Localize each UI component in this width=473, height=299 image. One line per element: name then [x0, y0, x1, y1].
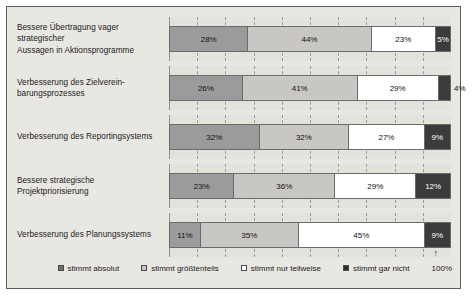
row-plot-area: 26%41%29%4%	[169, 66, 451, 110]
bar-segment-3: 29%	[358, 76, 439, 100]
legend-swatch-icon	[241, 265, 247, 271]
bar-segment-value: 26%	[198, 84, 214, 93]
chart-plot-container: Bessere Übertragung vager strategischerA…	[11, 11, 456, 284]
bar-segment-1: 26%	[170, 76, 243, 100]
row-label-line1: Verbesserung des Reportingsystems	[17, 131, 152, 143]
bar-segment-value: 9%	[432, 231, 444, 240]
bar-segment-value: 32%	[206, 133, 222, 142]
legend-swatch-icon	[58, 265, 64, 271]
bar-segment-value: 9%	[432, 133, 444, 142]
chart-legend: stimmt absolutstimmt größtenteilsstimmt …	[11, 258, 456, 278]
chart-row: Bessere strategische Projektpriorisierun…	[11, 164, 456, 208]
stacked-bar: 23%36%29%12%	[169, 173, 451, 199]
axis-arrow-icon: ↑	[434, 249, 439, 258]
bar-segment-2: 44%	[248, 27, 371, 51]
bar-segment-value: 29%	[367, 182, 383, 191]
bar-segment-2: 36%	[234, 174, 335, 198]
bar-segment-value: 41%	[292, 84, 308, 93]
row-label-line2: Aussagen in Aktionsprogramme	[17, 45, 165, 57]
chart-row: Verbesserung des Reportingsystems32%32%2…	[11, 115, 456, 159]
bar-segment-value: 11%	[177, 231, 192, 240]
bar-segment-value: 44%	[301, 35, 317, 44]
bar-segment-3: 27%	[349, 125, 425, 149]
row-category-label: Bessere Übertragung vager strategischerA…	[17, 17, 165, 61]
row-label-line1: Bessere strategische Projektpriorisierun…	[17, 175, 165, 198]
bar-segment-1: 23%	[170, 174, 234, 198]
legend-item-label: stimmt größtenteils	[151, 264, 219, 273]
bar-segment-value: 5%	[437, 35, 449, 44]
row-label-line1: Verbesserung des Planungssystems	[17, 229, 151, 241]
row-label-line1: Verbesserung des Zielverein-	[17, 77, 125, 89]
row-label-line1: Bessere Übertragung vager strategischer	[17, 22, 165, 45]
row-plot-area: 23%36%29%12%	[169, 164, 451, 208]
bar-segment-3: 23%	[372, 27, 436, 51]
stacked-bar: 11%35%45%9%	[169, 222, 451, 248]
row-category-label: Verbesserung des Planungssystems	[17, 213, 165, 257]
bar-segment-1: 28%	[170, 27, 248, 51]
bar-segment-2: 41%	[243, 76, 358, 100]
bar-segment-1: 11%	[170, 223, 201, 247]
row-category-label: Verbesserung des Reportingsystems	[17, 115, 165, 159]
bar-segment-value: 35%	[241, 231, 257, 240]
bar-segment-value: 23%	[194, 182, 210, 191]
bar-segment-value: 36%	[276, 182, 292, 191]
bar-segment-value: 27%	[378, 133, 394, 142]
bar-segment-2: 35%	[201, 223, 299, 247]
legend-item-label: stimmt nur teilweise	[251, 264, 321, 273]
bar-segment-3: 45%	[299, 223, 425, 247]
legend-item[interactable]: stimmt nur teilweise	[241, 264, 321, 273]
bar-segment-3: 29%	[335, 174, 416, 198]
bar-segment-value: 28%	[201, 35, 217, 44]
axis-end-label: 100%	[432, 258, 452, 278]
row-plot-area: 28%44%23%5%	[169, 17, 451, 61]
row-plot-area: 32%32%27%9%	[169, 115, 451, 159]
bar-segment-value: 32%	[296, 133, 312, 142]
bar-segment-4: 12%	[416, 174, 450, 198]
row-plot-area: 11%35%45%9%	[169, 213, 451, 257]
bar-segment-value: 4%	[454, 84, 466, 93]
bar-segment-4: 9%	[425, 223, 450, 247]
row-label-line2: barungsprozesses	[17, 88, 125, 100]
stacked-bar: 32%32%27%9%	[169, 124, 451, 150]
stacked-bar: 28%44%23%5%	[169, 26, 451, 52]
legend-item[interactable]: stimmt absolut	[58, 264, 120, 273]
legend-item[interactable]: stimmt gar nicht	[343, 264, 409, 273]
row-category-label: Bessere strategische Projektpriorisierun…	[17, 164, 165, 208]
legend-swatch-icon	[141, 265, 147, 271]
bar-segment-4: 9%	[425, 125, 450, 149]
chart-row: Verbesserung des Zielverein-barungsproze…	[11, 66, 456, 110]
bar-segment-value: 29%	[390, 84, 406, 93]
stacked-bar: 26%41%29%4%	[169, 75, 451, 101]
bar-segment-value: 12%	[425, 182, 441, 191]
bar-segment-2: 32%	[260, 125, 350, 149]
bar-segment-value: 45%	[353, 231, 369, 240]
bar-segment-4: 4%	[439, 76, 450, 100]
legend-item[interactable]: stimmt größtenteils	[141, 264, 219, 273]
chart-row: Verbesserung des Planungssystems11%35%45…	[11, 213, 456, 257]
chart-figure: Bessere Übertragung vager strategischerA…	[6, 6, 461, 289]
bar-segment-value: 23%	[395, 35, 411, 44]
chart-row: Bessere Übertragung vager strategischerA…	[11, 17, 456, 61]
bar-segment-4: 5%	[436, 27, 450, 51]
row-category-label: Verbesserung des Zielverein-barungsproze…	[17, 66, 165, 110]
legend-item-label: stimmt gar nicht	[353, 264, 409, 273]
legend-swatch-icon	[343, 265, 349, 271]
legend-item-label: stimmt absolut	[68, 264, 120, 273]
bar-segment-1: 32%	[170, 125, 260, 149]
